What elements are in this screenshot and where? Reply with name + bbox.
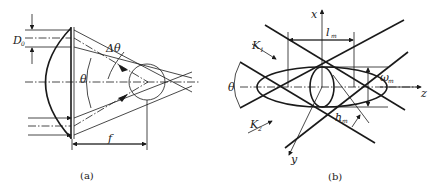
beam-arrow (118, 94, 128, 102)
label-theta-b: θ (228, 81, 235, 94)
svg-text:0: 0 (21, 40, 25, 47)
svg-text:1: 1 (260, 46, 264, 53)
svg-text:m: m (331, 32, 337, 39)
svg-text:m: m (388, 77, 394, 84)
label-focal-length: f (107, 132, 114, 145)
beam-arrow (118, 64, 128, 72)
lens-curved-surface (46, 28, 72, 138)
label-x: x (311, 8, 318, 21)
label-delta-theta: Δθ (105, 42, 121, 55)
svg-text:2: 2 (257, 125, 262, 132)
diagram-canvas: D 0 θ Δθ f (a) z (0, 0, 435, 189)
label-lm: l (326, 26, 330, 39)
label-z: z (420, 87, 427, 100)
svg-text:m: m (342, 117, 348, 124)
caption-b: (b) (328, 171, 342, 182)
y-axis (289, 87, 322, 155)
panel-a: D 0 θ Δθ f (a) (12, 14, 200, 181)
caption-a: (a) (80, 170, 94, 181)
label-theta: θ (80, 73, 87, 86)
label-y: y (290, 153, 298, 166)
panel-b: z x y l m ω m h m θ (228, 8, 427, 182)
